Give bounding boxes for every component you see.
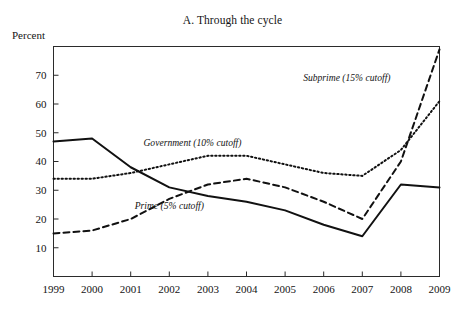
series-label: Prime (5% cutoff) xyxy=(134,200,204,212)
figure-panel: A. Through the cycle Percent 10203040506… xyxy=(0,0,465,318)
x-tick-label: 1999 xyxy=(43,283,66,295)
series-label: Government (10% cutoff) xyxy=(143,137,241,149)
y-tick-label: 70 xyxy=(36,69,48,81)
x-tick-label: 2005 xyxy=(274,283,297,295)
x-tick-label: 2003 xyxy=(197,283,220,295)
y-tick-label: 10 xyxy=(36,242,48,254)
series-label: Subprime (15% cutoff) xyxy=(303,72,390,84)
y-axis-ticks: 10203040506070 xyxy=(36,69,59,254)
x-tick-label: 2004 xyxy=(236,283,259,295)
x-tick-label: 2008 xyxy=(390,283,413,295)
series-annotations: Subprime (15% cutoff)Government (10% cut… xyxy=(134,72,391,212)
y-tick-label: 30 xyxy=(36,184,48,196)
y-tick-label: 50 xyxy=(36,127,48,139)
chart-canvas: 10203040506070 1999200020012002200320042… xyxy=(0,0,465,318)
x-tick-label: 2001 xyxy=(120,283,142,295)
series-line-solid xyxy=(54,139,440,237)
x-tick-label: 2006 xyxy=(313,283,336,295)
y-tick-label: 60 xyxy=(36,98,48,110)
x-tick-label: 2009 xyxy=(429,283,452,295)
y-tick-label: 40 xyxy=(36,155,48,167)
x-tick-label: 2007 xyxy=(351,283,374,295)
x-axis-ticks: 1999200020012002200320042005200620072008… xyxy=(43,272,452,295)
x-tick-label: 2002 xyxy=(158,283,180,295)
x-tick-label: 2000 xyxy=(81,283,104,295)
y-tick-label: 20 xyxy=(36,213,48,225)
series-line-dotted xyxy=(54,101,440,179)
